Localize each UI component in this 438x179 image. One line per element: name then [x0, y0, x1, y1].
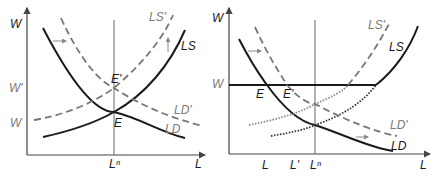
- right-y-axis-label: W: [212, 11, 225, 25]
- left-panel: W W' W Lⁿ L LS' LS LD' LD E' E: [9, 8, 205, 171]
- left-w-prime-tick: W': [9, 81, 23, 95]
- left-y-axis-label: W: [10, 17, 23, 31]
- left-point-e: E: [114, 116, 123, 130]
- right-x-axis-label: L: [420, 158, 427, 172]
- left-ld-label: LD: [165, 122, 181, 136]
- right-point-e-prime: E': [283, 87, 294, 101]
- left-w-tick: W: [10, 116, 23, 130]
- right-ld-prime-label: LD': [390, 118, 408, 132]
- left-x-axis-label: L: [195, 157, 202, 171]
- right-l-tick: L: [262, 158, 269, 172]
- right-l-prime-tick: L': [290, 158, 300, 172]
- right-ln-tick: Lⁿ: [310, 158, 322, 172]
- right-ls-label: LS: [389, 40, 404, 54]
- left-ls-label: LS: [181, 39, 196, 53]
- right-point-e: E: [256, 87, 265, 101]
- right-panel: W W L L' Lⁿ L LS' LS LD' LD E E': [212, 8, 430, 172]
- labor-market-diagrams: W W' W Lⁿ L LS' LS LD' LD E' E: [0, 0, 438, 179]
- left-ls-prime-label: LS': [149, 10, 167, 24]
- right-ld-label: LD: [391, 139, 407, 153]
- left-ln-tick: Lⁿ: [109, 157, 121, 171]
- right-ls-prime-label: LS': [368, 18, 386, 32]
- left-ld-prime-label: LD': [174, 103, 192, 117]
- left-ls-prime-curve: [34, 15, 173, 120]
- right-w-tick: W: [212, 77, 225, 91]
- left-point-e-prime: E': [111, 72, 122, 86]
